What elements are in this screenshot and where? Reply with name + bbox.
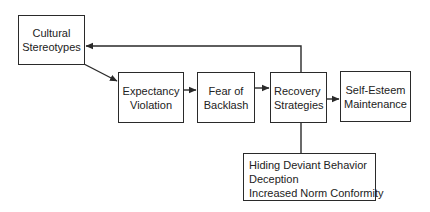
node-label-line: Stereotypes (22, 40, 81, 54)
node-label-line: Expectancy (123, 84, 180, 98)
node-label-line: Maintenance (344, 97, 407, 111)
node-fear-of-backlash: Fear of Backlash (197, 72, 255, 123)
node-recovery-strategies: Recovery Strategies (270, 72, 327, 123)
node-expectancy-violation: Expectancy Violation (118, 72, 184, 123)
node-label-line: Self-Esteem (344, 83, 407, 97)
node-label-line: Violation (123, 98, 180, 112)
node-label-line: Recovery (274, 84, 324, 98)
node-label-line: Strategies (274, 98, 324, 112)
strategy-item: Increased Norm Conformity (249, 186, 375, 200)
node-self-esteem-maintenance: Self-Esteem Maintenance (340, 71, 411, 122)
strategy-item: Hiding Deviant Behavior (249, 158, 375, 172)
node-label-line: Backlash (204, 98, 249, 112)
arrow-stereotypes-to-violation (84, 64, 117, 81)
node-label-line: Cultural (22, 26, 81, 40)
strategies-list-box: Hiding Deviant Behavior Deception Increa… (243, 153, 376, 201)
node-label-line: Fear of (204, 84, 249, 98)
node-cultural-stereotypes: Cultural Stereotypes (18, 15, 85, 65)
strategy-item: Deception (249, 172, 375, 186)
arrow-feedback-to-stereotypes (86, 46, 301, 72)
